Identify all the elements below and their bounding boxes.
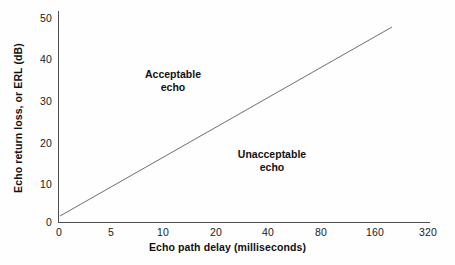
annotation-acceptable-echo: Acceptable echo — [113, 68, 233, 94]
plot-area — [0, 0, 455, 265]
x-axis-title: Echo path delay (milliseconds) — [0, 241, 455, 253]
annotation-unacceptable-echo: Unacceptable echo — [208, 148, 336, 174]
chart-figure: 50 40 30 20 10 0 0 5 10 20 40 80 160 320… — [0, 0, 455, 265]
threshold-line — [60, 27, 392, 216]
y-axis-title: Echo return loss, or ERL (dB) — [12, 18, 24, 218]
